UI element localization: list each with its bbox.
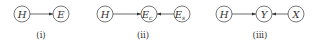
svg-text:E: E: [56, 9, 65, 20]
node-x: X: [288, 6, 304, 22]
svg-text:H: H: [100, 9, 110, 20]
caption-ii: (ii): [137, 30, 149, 40]
diagram-i: H E (i): [14, 6, 69, 40]
svg-text:X: X: [291, 9, 300, 20]
node-h: H: [97, 6, 113, 22]
diagram-iii: H Y X (iii): [216, 6, 304, 40]
node-y: Y: [256, 6, 272, 22]
node-es: Es: [174, 6, 190, 22]
diagram-ii: H Ec Es (ii): [97, 6, 190, 40]
svg-text:H: H: [219, 9, 229, 20]
node-ec: Ec: [141, 6, 157, 22]
node-e: E: [53, 6, 69, 22]
causal-diagrams: H E (i) H Ec Es (ii) H: [0, 0, 324, 43]
svg-text:H: H: [17, 9, 27, 20]
node-h: H: [216, 6, 232, 22]
caption-i: (i): [36, 30, 45, 40]
caption-iii: (iii): [253, 30, 268, 40]
node-h: H: [14, 6, 30, 22]
